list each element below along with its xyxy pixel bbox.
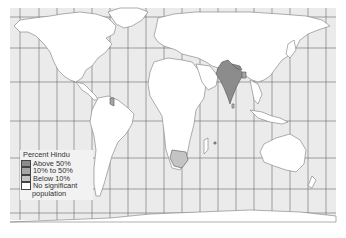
swatch-10-to-50: [21, 167, 31, 175]
legend: Percent Hindu Above 50% 10% to 50% Below…: [20, 150, 93, 200]
world-map: [0, 0, 346, 238]
legend-label-continuation: population: [21, 190, 91, 198]
sri-lanka: [232, 104, 234, 108]
swatch-above-50: [21, 160, 31, 168]
swatch-none: [21, 182, 31, 190]
bangladesh-10-to-50: [242, 72, 246, 78]
swatch-below-10: [21, 175, 31, 183]
legend-title: Percent Hindu: [23, 151, 91, 159]
mauritius: [214, 142, 216, 144]
